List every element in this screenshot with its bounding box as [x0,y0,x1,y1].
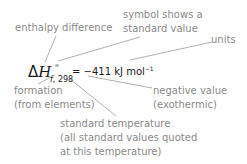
delta-symbol: Δ [28,63,38,81]
label-enthalpy-difference: enthalpy difference [15,21,112,35]
label-negative-line1: negative value [153,84,227,98]
subscript-temperature: , 298 [53,75,73,84]
unit-exponent: −1 [145,65,154,72]
leader-units [130,42,212,60]
label-temperature-line1: standard temperature [60,117,170,131]
label-symbol-line2: standard value [123,22,198,36]
unit-text: kJ mol [114,66,145,77]
enthalpy-formula: ΔH ⦵ f, 298 = −411 kJ mol−1 [28,62,51,81]
label-formation-line2: (from elements) [14,98,95,112]
leader-symbol [58,37,140,61]
label-symbol-line1: symbol shows a [123,8,203,22]
label-units: units [211,33,236,47]
formula-subscript: f, 298 [50,75,73,84]
label-negative-line2: (exothermic) [153,98,217,112]
leader-enthalpy [45,36,56,62]
enthalpy-value: −411 [84,66,111,77]
label-temperature-line3: at this temperature) [60,145,161,159]
equals-sign: = [72,66,80,77]
leader-negative [88,76,152,88]
label-temperature-line2: (all standard values quoted [60,131,197,145]
label-formation-line1: formation [14,84,63,98]
standard-state-symbol: ⦵ [54,61,60,69]
formula-rhs: = −411 kJ mol−1 [72,65,154,77]
